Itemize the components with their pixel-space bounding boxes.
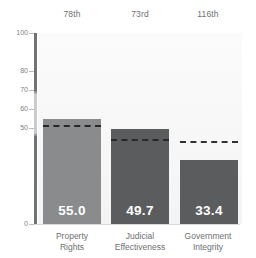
category-label-line-2: Integrity — [172, 242, 244, 253]
y-tick-mark-80 — [29, 71, 34, 72]
x-axis-baseline — [34, 224, 240, 225]
bar-chart: 78th 73rd 116th 100 80 70 60 50 0 55.0 4… — [0, 0, 256, 258]
category-label-government-integrity: Government Integrity — [172, 231, 244, 252]
bar-value-government-integrity: 33.4 — [180, 203, 238, 218]
category-label-line-1: Government — [172, 231, 244, 242]
category-label-judicial-effectiveness: Judicial Effectiveness — [106, 231, 174, 252]
bar-value-property-rights: 55.0 — [43, 203, 101, 218]
bar-government-integrity[interactable]: 33.4 — [180, 160, 238, 224]
y-tick-label-60: 60 — [6, 105, 28, 113]
rank-label-government-integrity: 116th — [174, 9, 242, 20]
bar-judicial-effectiveness[interactable]: 49.7 — [111, 129, 169, 224]
bar-value-judicial-effectiveness: 49.7 — [111, 203, 169, 218]
y-tick-mark-70 — [29, 90, 34, 91]
y-tick-label-50: 50 — [6, 124, 28, 132]
bar-property-rights[interactable]: 55.0 — [43, 119, 101, 224]
reference-line-property-rights — [43, 125, 101, 127]
category-label-line-1: Judicial — [106, 231, 174, 242]
y-tick-label-0: 0 — [6, 220, 28, 228]
rank-label-property-rights: 78th — [38, 9, 106, 20]
category-label-property-rights: Property Rights — [38, 231, 106, 252]
rank-label-judicial-effectiveness: 73rd — [106, 9, 174, 20]
y-tick-label-80: 80 — [6, 67, 28, 75]
y-tick-label-100: 100 — [6, 29, 28, 37]
y-tick-mark-60 — [29, 109, 34, 110]
reference-line-government-integrity — [180, 141, 238, 143]
y-tick-mark-100 — [29, 33, 34, 34]
category-label-line-2: Effectiveness — [106, 242, 174, 253]
category-label-line-1: Property — [38, 231, 106, 242]
y-tick-label-70: 70 — [6, 86, 28, 94]
reference-line-judicial-effectiveness — [111, 139, 169, 141]
category-label-line-2: Rights — [38, 242, 106, 253]
y-tick-mark-50 — [29, 128, 34, 129]
y-axis-spine — [34, 33, 37, 225]
